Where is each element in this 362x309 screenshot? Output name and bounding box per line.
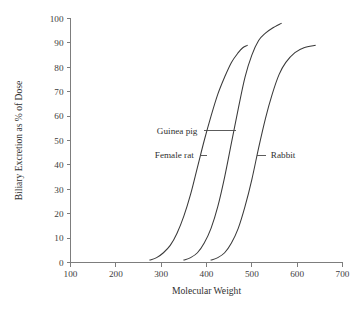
y-tick-label: 100 [50,14,64,24]
y-tick-label: 50 [54,136,64,146]
y-tick-label: 90 [54,38,64,48]
chart-figure: 0102030405060708090100 10020030040050060… [0,0,362,309]
x-tick-label: 300 [154,269,168,279]
curve-rabbit [211,45,315,260]
biliary-excretion-chart: 0102030405060708090100 10020030040050060… [0,0,362,309]
x-tick-label: 200 [109,269,123,279]
y-tick-label: 20 [54,209,64,219]
data-curves [150,23,315,260]
y-tick-label: 60 [54,111,64,121]
series-label-female-rat: Female rat [155,150,194,160]
x-tick-label: 600 [290,269,304,279]
x-tick-label: 500 [245,269,259,279]
x-tick-label: 100 [64,269,78,279]
y-tick-label: 0 [59,258,64,268]
x-axis-ticks: 100200300400500600700 [64,263,350,280]
series-label-guinea-pig: Guinea pig [157,126,198,136]
y-tick-label: 80 [54,63,64,73]
curve-guinea-pig [184,23,281,260]
y-tick-label: 10 [54,233,64,243]
series-label-rabbit: Rabbit [271,150,296,160]
y-tick-label: 30 [54,185,64,195]
y-axis-title: Biliary Excretion as % of Dose [13,81,24,201]
x-tick-label: 700 [336,269,350,279]
y-tick-label: 70 [54,87,64,97]
x-tick-label: 400 [200,269,214,279]
y-tick-label: 40 [54,160,64,170]
y-axis-ticks: 0102030405060708090100 [50,14,71,268]
x-axis-title: Molecular Weight [172,285,241,296]
series-annotations: Guinea pigFemale ratRabbit [155,126,296,160]
